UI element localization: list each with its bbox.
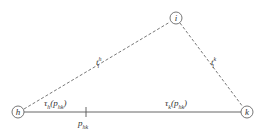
- segment-label-tau-k: τk(phk): [165, 99, 187, 110]
- node-h-label: h: [12, 106, 24, 118]
- node-i-label: i: [170, 12, 182, 24]
- tick-label-p-hk: phk: [78, 119, 88, 130]
- diagram-canvas: [0, 0, 266, 138]
- edge-label-t-i-h: thi: [96, 56, 99, 69]
- segment-label-tau-h: τh(phk): [44, 99, 66, 110]
- node-k-label: k: [241, 106, 253, 118]
- edge-label-t-i-k: tki: [211, 56, 214, 69]
